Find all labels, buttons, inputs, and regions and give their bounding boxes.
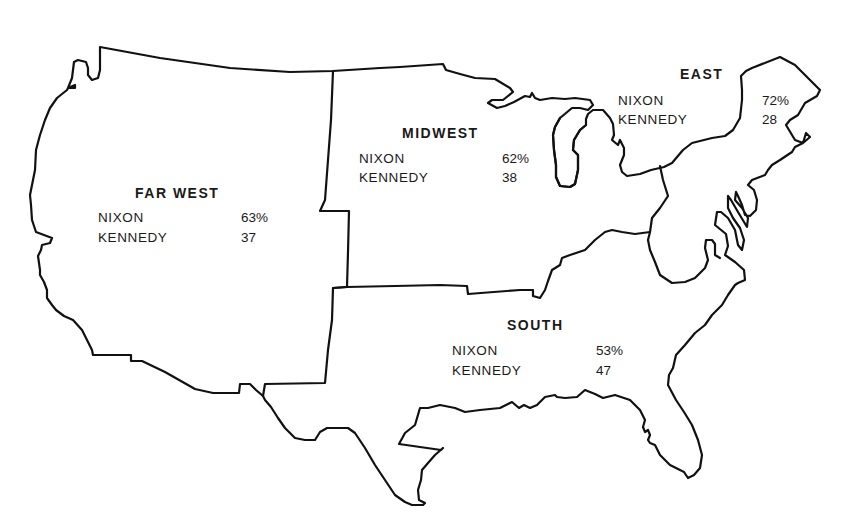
candidate-label: NIXON xyxy=(98,208,144,227)
region-name: FAR WEST xyxy=(135,184,219,203)
candidate-label: KENNEDY xyxy=(359,168,428,187)
lake-michigan-outline xyxy=(553,118,586,187)
region-name: EAST xyxy=(680,65,723,84)
border-midwest-south xyxy=(333,230,650,298)
vote-share: 28 xyxy=(762,110,777,129)
candidate-label: NIXON xyxy=(618,91,664,110)
vote-share: 62% xyxy=(502,149,529,168)
border-midwest-east xyxy=(650,166,668,232)
candidate-label: NIXON xyxy=(359,149,405,168)
vote-share: 53% xyxy=(596,341,623,360)
border-farwest-midwest xyxy=(320,71,349,287)
vote-share: 63% xyxy=(241,208,268,227)
border-farwest-south xyxy=(263,287,347,396)
candidate-label: KENNEDY xyxy=(98,228,167,247)
candidate-label: NIXON xyxy=(452,341,498,360)
region-name: SOUTH xyxy=(507,316,564,335)
vote-share: 47 xyxy=(596,361,611,380)
vote-share: 38 xyxy=(502,168,517,187)
candidate-label: KENNEDY xyxy=(452,361,521,380)
candidate-label: KENNEDY xyxy=(618,110,687,129)
vote-share: 72% xyxy=(762,91,789,110)
us-outline xyxy=(30,47,820,505)
region-name: MIDWEST xyxy=(402,124,479,143)
vote-share: 37 xyxy=(241,228,256,247)
border-east-south xyxy=(648,232,720,283)
